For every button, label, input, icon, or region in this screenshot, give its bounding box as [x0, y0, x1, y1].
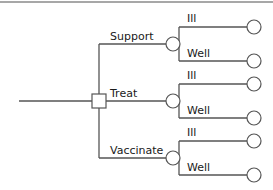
option-branch-treat: Treat [106, 87, 166, 101]
option-label-support: Support [110, 30, 154, 43]
terminal-node-circle [247, 20, 261, 34]
outcome-label-ill: Ill [187, 126, 196, 139]
outcome-label-well: Well [187, 161, 210, 174]
terminal-node-circle [247, 77, 261, 91]
chance-node-circle [166, 151, 180, 165]
option-label-vaccinate: Vaccinate [110, 144, 164, 157]
outcome-label-well: Well [187, 47, 210, 60]
option-label-treat: Treat [109, 87, 138, 100]
terminal-node-circle [247, 111, 261, 125]
option-branch-support: Support [99, 30, 166, 44]
chance-subtree-vaccinate: Ill Well [166, 126, 261, 182]
chance-node-circle [166, 37, 180, 51]
chance-node-circle [166, 94, 180, 108]
decision-node-square [92, 94, 106, 108]
terminal-node-circle [247, 54, 261, 68]
outcome-label-well: Well [187, 104, 210, 117]
decision-tree-diagram: Support Treat Vaccinate Ill Well Ill Wel… [0, 0, 273, 190]
outcome-label-ill: Ill [187, 69, 196, 82]
terminal-node-circle [247, 134, 261, 148]
chance-subtree-support: Ill Well [166, 12, 261, 68]
terminal-node-circle [247, 168, 261, 182]
chance-subtree-treat: Ill Well [166, 69, 261, 125]
outcome-label-ill: Ill [187, 12, 196, 25]
option-branch-vaccinate: Vaccinate [99, 144, 166, 158]
